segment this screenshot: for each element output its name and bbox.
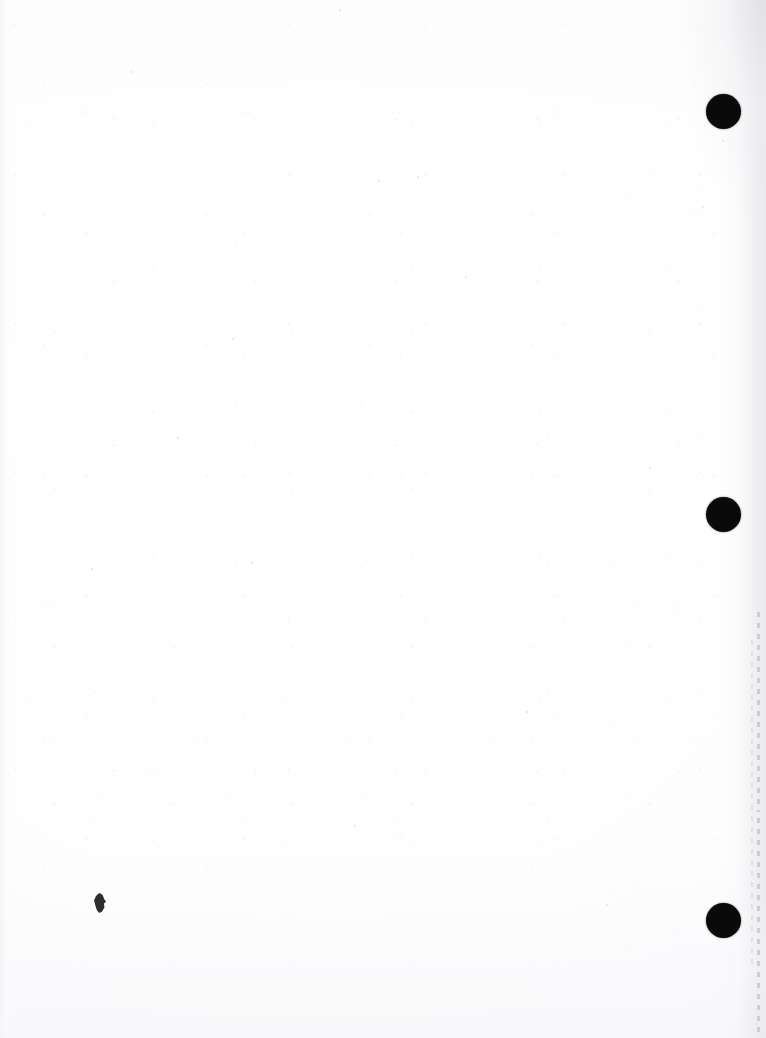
- hole-punch-mark-top: [706, 94, 741, 129]
- hole-punch-mark-middle: [706, 497, 741, 532]
- paper-sheet: [0, 0, 766, 1038]
- hole-punch-mark-bottom: [706, 903, 741, 938]
- scanned-page: [0, 0, 766, 1038]
